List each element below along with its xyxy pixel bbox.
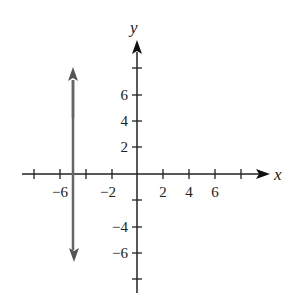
y-tick-label: 4	[121, 113, 129, 129]
x-tick-label: 4	[185, 184, 193, 200]
y-tick-label: 6	[121, 87, 129, 103]
line-arrow-down-icon	[69, 248, 79, 262]
y-tick-label: −6	[112, 245, 128, 261]
y-tick-label: −4	[112, 219, 128, 235]
line-arrow-up-icon	[68, 67, 78, 81]
x-tick-label: 2	[159, 184, 167, 200]
x-tick-label: 6	[211, 184, 219, 200]
x-axis-label: x	[273, 165, 282, 184]
coordinate-plane: x −6 −2 2 4 6 y 6 4 2 −4 −6	[0, 0, 302, 308]
x-tick-label: −6	[52, 184, 68, 200]
y-axis-arrow-icon	[132, 40, 142, 54]
y-tick-label: 2	[121, 139, 129, 155]
x-axis: x −6 −2 2 4 6	[22, 165, 282, 200]
y-axis-label: y	[128, 18, 138, 37]
y-axis: y 6 4 2 −4 −6	[112, 18, 142, 293]
vertical-line-x-minus-5	[68, 67, 79, 262]
x-tick-label: −2	[100, 184, 116, 200]
